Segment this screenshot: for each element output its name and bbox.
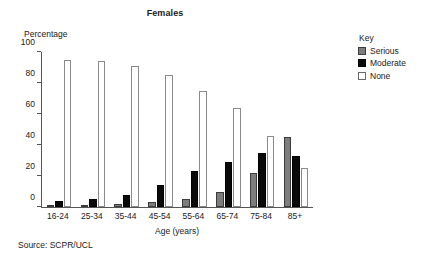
x-tick-label: 35-44 (109, 211, 143, 221)
legend-label: Moderate (370, 58, 406, 68)
bar-group (250, 52, 275, 207)
x-tick-label: 85+ (278, 211, 312, 221)
y-tick-label: 80 (11, 68, 35, 78)
x-tick-label: 75-84 (244, 211, 278, 221)
x-axis-line (41, 207, 313, 208)
y-tick-label: 0 (11, 192, 35, 202)
legend-swatch-moderate-icon (358, 59, 366, 67)
plot-area: 020406080100 16-2425-3435-4445-5455-6465… (41, 52, 312, 207)
bar-moderate-65-74 (225, 162, 233, 207)
bar-groups (41, 52, 312, 207)
y-tick-label: 60 (11, 99, 35, 109)
legend-title: Key (359, 33, 438, 43)
legend-swatch-serious-icon (358, 47, 366, 55)
x-tick-label: 55-64 (177, 211, 211, 221)
legend-swatch-none-icon (358, 72, 366, 80)
bar-moderate-85- (292, 156, 300, 207)
bar-moderate-16-24 (55, 201, 63, 207)
bar-none-35-44 (131, 66, 139, 207)
bar-group (81, 52, 106, 207)
y-tick-label: 100 (11, 37, 35, 47)
x-tick-label: 16-24 (41, 211, 75, 221)
bar-moderate-25-34 (89, 199, 97, 207)
x-tick-label: 45-54 (143, 211, 177, 221)
legend-label: Serious (370, 46, 399, 56)
bar-none-45-54 (165, 75, 173, 207)
bar-group (148, 52, 173, 207)
source-note: Source: SCPR/UCL (18, 240, 93, 250)
y-tick-label: 20 (11, 161, 35, 171)
legend-item-none[interactable]: None (358, 70, 438, 81)
legend-item-moderate[interactable]: Moderate (358, 58, 438, 69)
bar-moderate-35-44 (123, 195, 131, 207)
bar-group (114, 52, 139, 207)
bar-none-16-24 (64, 60, 72, 207)
bar-group (284, 52, 309, 207)
bar-serious-25-34 (81, 205, 89, 207)
chart-figure: Females Percentage 020406080100 16-2425-… (0, 0, 442, 265)
bar-serious-55-64 (182, 199, 190, 207)
legend-label: None (370, 71, 390, 81)
bar-serious-45-54 (148, 202, 156, 207)
bar-serious-85- (284, 137, 292, 207)
bar-none-65-74 (233, 108, 241, 207)
bar-group (182, 52, 207, 207)
y-tick-label: 40 (11, 130, 35, 140)
bar-group (47, 52, 72, 207)
bar-none-55-64 (199, 91, 207, 207)
bar-group (216, 52, 241, 207)
chart-title: Females (0, 8, 330, 18)
x-tick-label: 25-34 (75, 211, 109, 221)
bar-none-85- (301, 168, 309, 207)
bar-moderate-45-54 (157, 185, 165, 207)
bar-serious-16-24 (47, 205, 55, 207)
bar-none-25-34 (98, 61, 106, 207)
bar-moderate-75-84 (258, 153, 266, 207)
bar-moderate-55-64 (191, 171, 199, 207)
bar-serious-35-44 (114, 204, 122, 207)
bar-none-75-84 (267, 136, 275, 207)
legend: Key SeriousModerateNone (358, 33, 438, 83)
bar-serious-65-74 (216, 192, 224, 208)
legend-rows: SeriousModerateNone (358, 45, 438, 81)
bar-serious-75-84 (250, 173, 258, 207)
legend-item-serious[interactable]: Serious (358, 45, 438, 56)
x-axis-title: Age (years) (41, 226, 313, 236)
x-tick-label: 65-74 (210, 211, 244, 221)
